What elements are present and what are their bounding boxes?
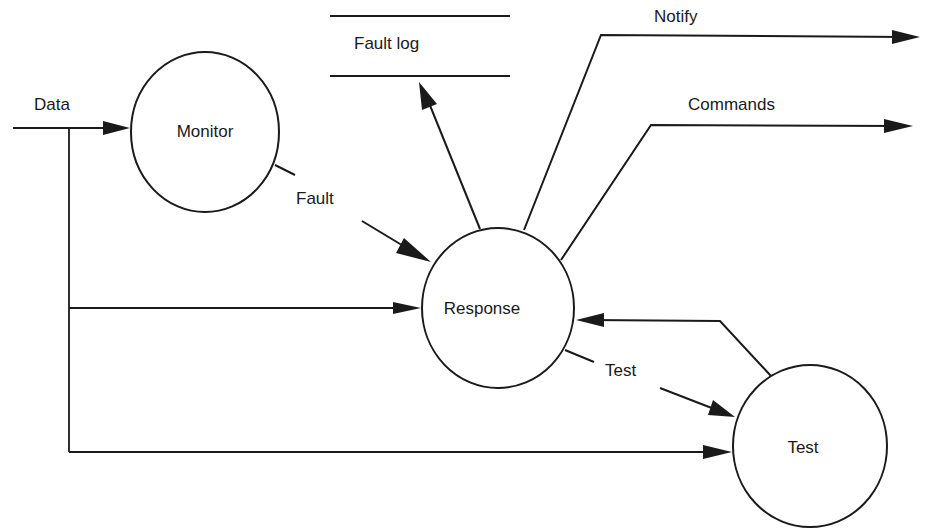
arrowhead-icon: [892, 30, 920, 44]
flow-notify: Notify: [524, 7, 920, 230]
arrowhead-icon: [419, 82, 437, 110]
process-label-monitor: Monitor: [177, 122, 234, 141]
flow-label-test: Test: [605, 361, 636, 380]
flow-label-data: Data: [34, 95, 70, 114]
flow-fault: Fault: [275, 165, 431, 262]
fault-handling-data-flow-diagram: Data Monitor Fault Fault log Notify: [0, 0, 926, 529]
arrowhead-icon: [576, 313, 604, 327]
flow-log: [419, 82, 480, 229]
process-response: Response: [422, 228, 574, 388]
flow-commands: Commands: [561, 95, 913, 260]
arrowhead-icon: [103, 121, 130, 135]
process-label-test: Test: [787, 438, 818, 457]
data-store-label-fault-log: Fault log: [354, 34, 419, 53]
arrowhead-icon: [393, 302, 421, 314]
flow-label-commands: Commands: [688, 95, 775, 114]
flow-data: Data: [13, 95, 130, 135]
flow-data-to-response: [69, 302, 421, 314]
arrowhead-icon: [884, 119, 913, 133]
flow-label-fault: Fault: [296, 189, 334, 208]
process-test: Test: [733, 365, 887, 527]
flow-data-to-test: [69, 445, 732, 459]
process-monitor: Monitor: [131, 52, 279, 212]
data-store-fault-log: Fault log: [330, 16, 510, 76]
process-label-response: Response: [444, 299, 521, 318]
flow-label-notify: Notify: [654, 7, 698, 26]
arrowhead-icon: [708, 400, 735, 417]
flow-test-request: Test: [565, 350, 735, 417]
arrowhead-icon: [396, 238, 431, 262]
arrowhead-icon: [703, 445, 732, 459]
